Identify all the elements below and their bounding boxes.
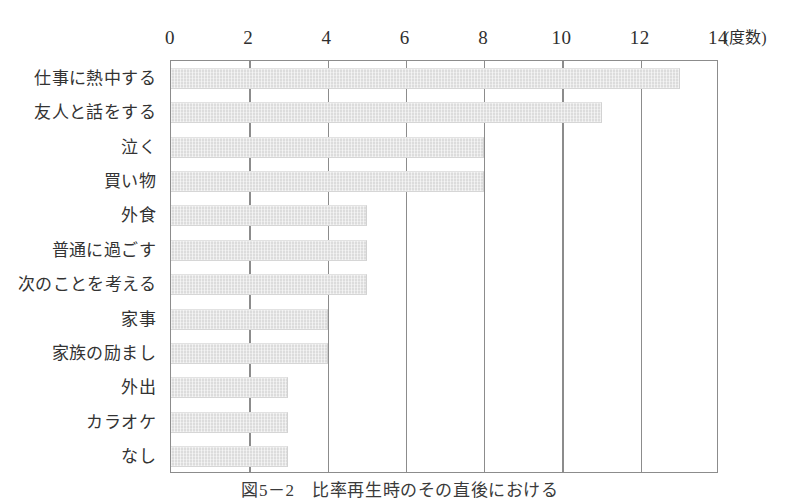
bar — [171, 240, 367, 261]
category-label: なし — [0, 448, 162, 465]
x-tick-label-6: 6 — [400, 28, 410, 47]
category-label: 次のことを考える — [0, 276, 162, 293]
bar — [171, 446, 288, 467]
category-label: 家族の励まし — [0, 345, 162, 362]
chart-top-axis: 0 2 4 6 8 10 12 14 (度数) — [0, 0, 800, 60]
category-label: 友人と話をする — [0, 104, 162, 121]
category-label: 泣く — [0, 139, 162, 156]
x-tick-label-12: 12 — [630, 28, 650, 47]
bar — [171, 412, 288, 433]
category-label: 外出 — [0, 379, 162, 396]
gridline — [641, 61, 642, 472]
category-label: カラオケ — [0, 414, 162, 431]
bar — [171, 377, 288, 398]
x-tick-label-0: 0 — [165, 28, 175, 47]
x-tick-label-10: 10 — [551, 28, 571, 47]
bar — [171, 205, 367, 226]
bar — [171, 274, 367, 295]
category-label: 買い物 — [0, 173, 162, 190]
x-tick-label-4: 4 — [322, 28, 332, 47]
bar — [171, 171, 484, 192]
bar — [171, 68, 680, 89]
x-tick-label-2: 2 — [243, 28, 253, 47]
bar — [171, 343, 328, 364]
category-label: 家事 — [0, 311, 162, 328]
bar — [171, 309, 328, 330]
bar — [171, 137, 484, 158]
x-tick-label-8: 8 — [478, 28, 488, 47]
figure-caption: 図5－2 比率再生時のその直後における — [0, 481, 800, 500]
bar — [171, 102, 602, 123]
plot-area — [170, 60, 718, 473]
category-label: 普通に過ごす — [0, 242, 162, 259]
category-label: 外食 — [0, 207, 162, 224]
x-axis-unit-label: (度数) — [724, 29, 767, 47]
category-label-column: 仕事に熱中する友人と話をする泣く買い物外食普通に過ごす次のことを考える家事家族の… — [0, 60, 162, 473]
category-label: 仕事に熱中する — [0, 70, 162, 87]
